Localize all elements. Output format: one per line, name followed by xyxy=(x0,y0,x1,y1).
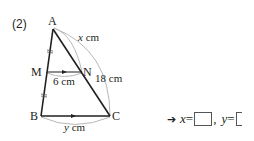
parallel-arrow-mn xyxy=(62,70,67,74)
tick-mb-1 xyxy=(41,94,47,95)
equals-sign-y: = xyxy=(227,112,234,126)
vertex-m-label: M xyxy=(31,66,42,78)
problem-number: (2) xyxy=(12,18,27,30)
ac-measure: 18 cm xyxy=(95,72,122,84)
arrow-icon: ➔ xyxy=(167,112,176,126)
parallel-arrow-bc xyxy=(71,114,76,118)
x-answer-box[interactable] xyxy=(194,112,212,126)
vertex-n-label: N xyxy=(83,66,92,78)
answer-line: ➔ x = , y = xyxy=(167,112,243,126)
bc-measure: y cm xyxy=(64,121,85,133)
mn-measure: 6 cm xyxy=(53,75,75,87)
tick-am-2 xyxy=(47,52,53,53)
tick-am-1 xyxy=(47,50,53,51)
vertex-a-label: A xyxy=(48,15,57,27)
equals-sign: = xyxy=(186,112,193,126)
y-answer-box[interactable] xyxy=(236,112,242,126)
vertex-b-label: B xyxy=(30,110,38,122)
an-measure: x cm xyxy=(78,31,99,43)
tick-mb-2 xyxy=(41,96,47,97)
separator: , xyxy=(213,112,216,126)
vertex-c-label: C xyxy=(112,110,120,122)
